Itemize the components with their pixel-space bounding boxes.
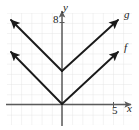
graph-figure: y x 8 5 g f	[0, 0, 139, 130]
series-label-g: g	[124, 9, 130, 20]
x-axis-label: x	[127, 103, 132, 114]
y-axis-label: y	[63, 2, 68, 13]
x-tick-label-5: 5	[112, 105, 118, 116]
y-tick-label-8: 8	[53, 14, 59, 25]
coordinate-plane	[0, 0, 139, 130]
series-label-f: f	[124, 42, 127, 53]
